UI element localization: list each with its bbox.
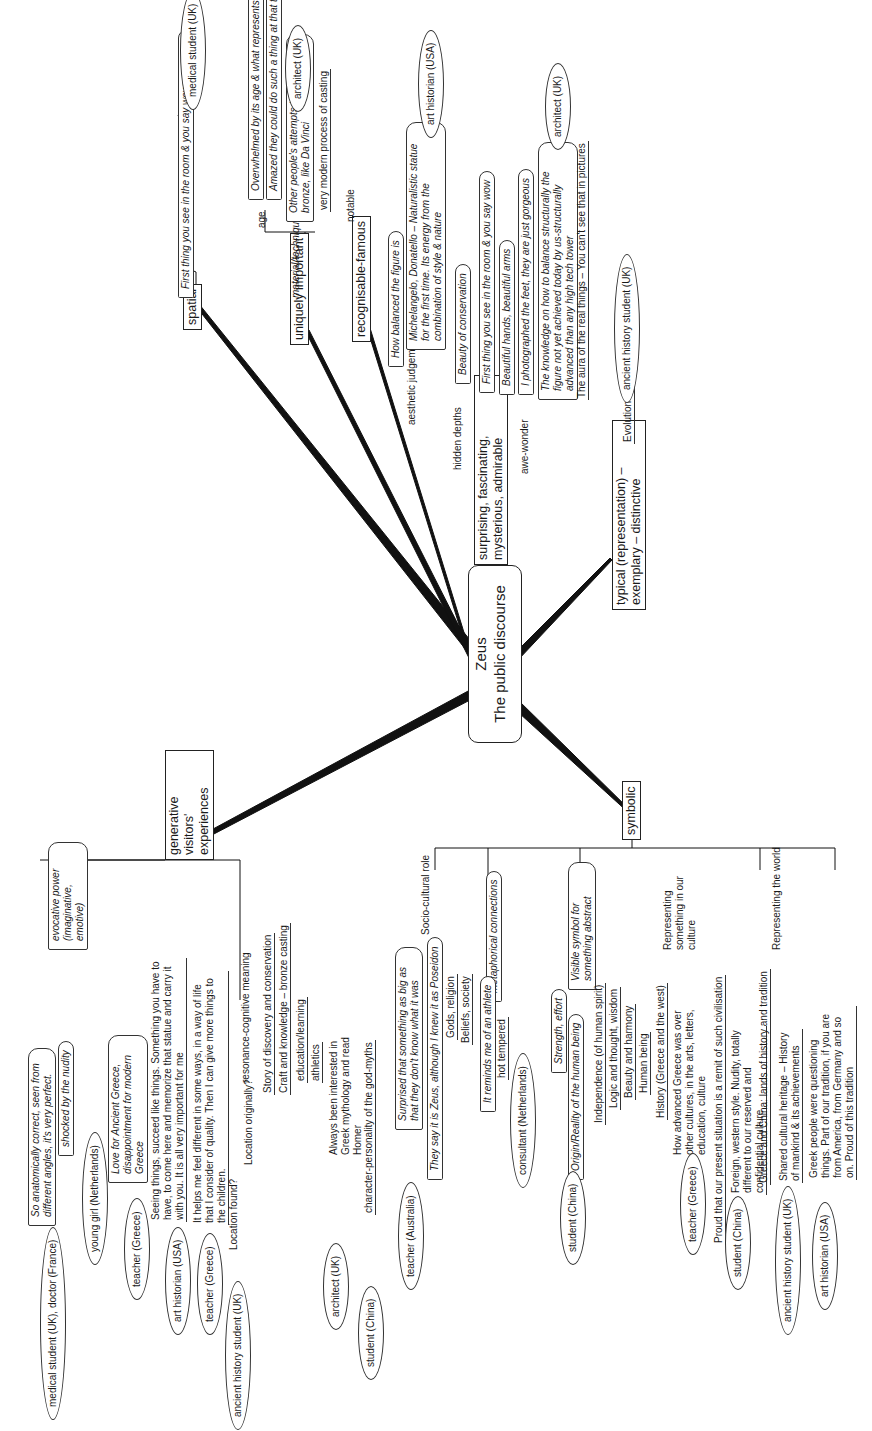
quote-amazed-casting: Amazed they could do such a thing at tha… bbox=[266, 0, 282, 200]
item-shared-heritage: Shared cultural heritage – History of ma… bbox=[778, 1029, 803, 1183]
item-proud-civilisation: Proud that our present situation is a re… bbox=[713, 975, 726, 1245]
label-age: age bbox=[256, 211, 268, 228]
speaker-young-girl-netherlands: young girl (Netherlands) bbox=[82, 1132, 108, 1265]
label-awe-wonder: awe-wonder bbox=[519, 420, 531, 474]
item-history-greece-west: History (Greece and the west) bbox=[655, 983, 668, 1120]
speaker-student-china-1: student (China) bbox=[358, 1286, 384, 1380]
speaker-architect-uk-1: architect (UK) bbox=[285, 25, 311, 112]
speaker-art-historian-usa-2: art historian (USA) bbox=[165, 1227, 191, 1335]
item-beauty-harmony: Beauty and harmony bbox=[623, 1004, 636, 1100]
label-representing-world: Representing the world bbox=[771, 847, 783, 950]
quote-aura-real-things: The aura of the real things – You can't … bbox=[576, 141, 589, 400]
item-gods-religion: Gods, religion bbox=[445, 974, 458, 1040]
label-hidden-depths: hidden depths bbox=[452, 407, 464, 470]
item-story-discovery: Story of discovery and conservation bbox=[262, 933, 275, 1095]
center-subtitle: The public discourse bbox=[491, 585, 508, 723]
speaker-teacher-greece-3: teacher (Greece) bbox=[680, 1153, 706, 1255]
label-socio-cultural-role: Socio-cultural role bbox=[420, 855, 432, 935]
quote-michelangelo: Michelangelo, Donatello – Naturalistic s… bbox=[406, 122, 446, 350]
node-surprising: surprising, fascinating, mysterious, adm… bbox=[474, 375, 508, 565]
node-visible-symbol: Visible symbol for something abstract bbox=[568, 862, 596, 990]
node-symbolic: symbolic bbox=[622, 781, 641, 840]
center-node-zeus: Zeus The public discourse bbox=[468, 565, 522, 743]
speaker-ancient-history-student-uk-3: ancient history student (UK) bbox=[775, 1186, 801, 1335]
quote-shocked-nudity: shocked by the nudity bbox=[58, 1041, 74, 1156]
quote-love-ancient-greece: Love for Ancient Greece, disappointment … bbox=[108, 1035, 148, 1183]
item-athletics: athletics bbox=[310, 1042, 323, 1083]
quote-seeing-things: Seeing things, succeed like things. Some… bbox=[150, 958, 187, 1222]
center-title: Zeus bbox=[472, 637, 489, 670]
item-location-originally: Location originally? bbox=[243, 1079, 255, 1165]
node-recognisable-famous: recognisable-famous bbox=[352, 216, 371, 342]
speaker-art-historian-usa-1: art historian (USA) bbox=[418, 30, 444, 138]
speaker-teacher-greece-2: teacher (Greece) bbox=[197, 1233, 223, 1335]
label-representing-culture: Representing something in our culture bbox=[662, 870, 698, 950]
quote-beautiful-hands: Beautiful hands, beautiful arms bbox=[499, 240, 515, 395]
quote-beauty-conservation: Beauty of conservation bbox=[455, 264, 471, 384]
item-human-being: Human being bbox=[638, 1032, 651, 1095]
speaker-art-historian-usa-3: art historian (USA) bbox=[812, 1202, 838, 1310]
item-craft-knowledge: Craft and knowledge – bronze casting bbox=[278, 923, 291, 1095]
speaker-medical-student-doctor: medical student (UK), doctor (France) bbox=[40, 1227, 66, 1420]
item-education-learning: education/learning bbox=[295, 997, 308, 1083]
item-beliefs-society: Beliefs, society bbox=[460, 974, 473, 1045]
speaker-student-china-2: student (China) bbox=[560, 1171, 586, 1265]
node-typical: typical (representation) – exemplary – d… bbox=[612, 420, 646, 610]
quote-surprised-big: Surprised that something as big as that … bbox=[395, 947, 423, 1130]
label-resonance-cognitive: resonance-cognitive meaning bbox=[240, 952, 252, 1083]
quote-anatomically-correct: So anatomically correct, seen from diffe… bbox=[28, 1048, 56, 1226]
quote-zeus-poseidon: They say it is Zeus, although I knew it … bbox=[427, 937, 443, 1180]
speaker-student-china-3: student (China) bbox=[725, 1196, 751, 1290]
speaker-ancient-history-student-uk-2: ancient history student (UK) bbox=[225, 1281, 251, 1430]
item-strength-effort: Strength, effort bbox=[551, 989, 567, 1073]
item-character-personality: character-personality of the god-myths bbox=[363, 1040, 376, 1215]
speaker-ancient-history-student-uk-1: ancient history student (UK) bbox=[614, 254, 640, 403]
quote-knowledge-balance: The knowledge on how to balance structur… bbox=[538, 142, 578, 400]
item-independence: Independence (of human spirit) bbox=[593, 983, 606, 1125]
quote-overwhelmed-age: Overwhelmed by its age & what represents bbox=[248, 0, 264, 200]
item-greece-china-lands: Greece and China: lands of history and t… bbox=[758, 969, 771, 1185]
item-origin-reality: Origin/Reality of the human being bbox=[568, 1014, 584, 1180]
quote-first-thing-wow: First thing you see in the room & you sa… bbox=[479, 171, 495, 393]
label-notable: notable bbox=[345, 189, 357, 222]
node-evocative-power: evocative power (imaginative, emotive) bbox=[48, 842, 88, 950]
quote-balanced-figure: How balanced the figure is bbox=[388, 231, 404, 367]
item-hot-tempered: hot tempered bbox=[496, 1017, 509, 1080]
item-how-advanced-greece: How advanced Greece was over other cultu… bbox=[672, 995, 708, 1155]
node-generative-visitors: generative visitors' experiences bbox=[165, 750, 214, 860]
center-label: Zeus The public discourse bbox=[471, 570, 509, 738]
concept-map: Zeus The public discourse spatial First … bbox=[0, 0, 872, 1431]
speaker-architect-uk-2: architect (UK) bbox=[545, 63, 571, 150]
speaker-teacher-greece-1: teacher (Greece) bbox=[124, 1198, 150, 1300]
quote-reminds-athlete: It reminds me of an athlete bbox=[480, 976, 496, 1112]
item-logic-thought: Logic and thought, wisdom bbox=[608, 987, 621, 1110]
label-material-technique: material/technique bbox=[290, 216, 302, 298]
quote-feel-different: It helps me feel different in some ways,… bbox=[192, 971, 229, 1225]
speaker-architect-uk-3: architect (UK) bbox=[323, 1243, 349, 1330]
quote-photographed-feet: I photographed the feet, they are just g… bbox=[518, 169, 534, 395]
item-location-found: Location found? bbox=[228, 1179, 240, 1250]
speaker-consultant-netherlands: consultant (Netherlands) bbox=[510, 1053, 536, 1188]
item-greek-questioning: Greek people were questioning things. Pa… bbox=[808, 1006, 857, 1180]
speaker-teacher-australia: teacher (Australia) bbox=[398, 1182, 424, 1290]
quote-modern-casting: very modern process of casting bbox=[318, 69, 331, 212]
item-interested-greek-myth: Always been interested in Greek mytholog… bbox=[328, 1030, 364, 1155]
